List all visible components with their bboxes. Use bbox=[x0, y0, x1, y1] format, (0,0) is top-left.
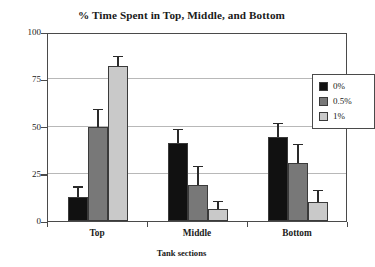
chart-title: % Time Spent in Top, Middle, and Bottom bbox=[0, 9, 363, 21]
error-bar-stem bbox=[277, 124, 278, 137]
plot-area: 0%0.5%1% bbox=[47, 33, 347, 222]
error-bar-stem bbox=[97, 110, 98, 127]
bar-middle-0% bbox=[168, 143, 188, 221]
x-tick-mark-2 bbox=[247, 222, 248, 227]
legend-item-0_5%[interactable]: 0.5% bbox=[319, 94, 374, 109]
x-tick-mark-1 bbox=[147, 222, 148, 227]
gridline-75 bbox=[48, 78, 346, 79]
error-bar-cap bbox=[293, 144, 303, 145]
error-bar-cap bbox=[173, 129, 183, 130]
error-bar-cap bbox=[113, 56, 123, 57]
bar-bottom-0% bbox=[268, 137, 288, 221]
x-tick-mark-0 bbox=[47, 222, 48, 227]
error-bar-stem bbox=[217, 201, 218, 209]
legend-label: 1% bbox=[333, 112, 345, 121]
y-tick-label-25: 25 bbox=[15, 169, 41, 179]
error-bar-stem bbox=[77, 187, 78, 197]
error-bar-cap bbox=[93, 109, 103, 110]
error-bar-cap bbox=[73, 186, 83, 187]
bar-top-0% bbox=[68, 197, 88, 221]
error-bar-stem bbox=[197, 166, 198, 185]
x-tick-mark-3 bbox=[347, 222, 348, 227]
x-axis-label: Tank sections bbox=[0, 248, 363, 258]
x-group-label-bottom: Bottom bbox=[257, 228, 337, 238]
y-tick-label-100: 100 bbox=[15, 27, 41, 37]
bar-bottom-1% bbox=[308, 202, 328, 221]
legend-swatch-icon bbox=[319, 112, 328, 121]
error-bar-stem bbox=[117, 57, 118, 66]
legend-swatch-icon bbox=[319, 97, 328, 106]
bar-top-1% bbox=[108, 66, 128, 221]
error-bar-cap bbox=[273, 123, 283, 124]
legend-item-1%[interactable]: 1% bbox=[319, 109, 374, 124]
bar-middle-0_5% bbox=[188, 185, 208, 221]
error-bar-cap bbox=[213, 201, 223, 202]
x-group-label-top: Top bbox=[57, 228, 137, 238]
bar-middle-1% bbox=[208, 209, 228, 221]
error-bar-cap bbox=[313, 190, 323, 191]
error-bar-stem bbox=[297, 144, 298, 163]
bar-top-0_5% bbox=[88, 127, 108, 222]
error-bar-stem bbox=[317, 191, 318, 202]
legend-label: 0% bbox=[333, 82, 345, 91]
y-tick-label-50: 50 bbox=[15, 122, 41, 132]
legend-item-0%[interactable]: 0% bbox=[319, 79, 374, 94]
legend-label: 0.5% bbox=[333, 97, 352, 106]
bar-bottom-0_5% bbox=[288, 163, 308, 221]
y-tick-label-0: 0 bbox=[15, 216, 41, 226]
chart-legend: 0%0.5%1% bbox=[312, 74, 375, 129]
x-group-label-middle: Middle bbox=[157, 228, 237, 238]
legend-swatch-icon bbox=[319, 82, 328, 91]
y-tick-label-75: 75 bbox=[15, 74, 41, 84]
error-bar-stem bbox=[177, 129, 178, 142]
error-bar-cap bbox=[193, 166, 203, 167]
